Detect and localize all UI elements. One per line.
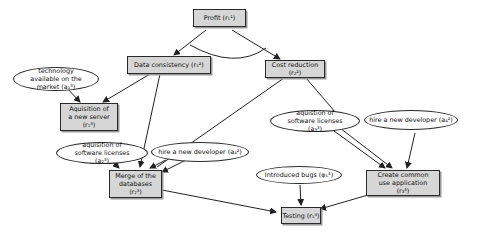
goal-cost-reduction[interactable]: Cost reduction (r₂²): [265, 60, 325, 78]
goal-merge-databases[interactable]: Merge of the databases (r₂³): [109, 170, 162, 198]
condition-developer-right-label: hire a new developer (a₄²): [369, 116, 453, 124]
goal-new-server[interactable]: Aquisition of a new server (r₁³): [60, 103, 118, 131]
edge-merge-testing: [162, 190, 276, 212]
condition-licenses-right[interactable]: aquistion of software licenses (a₃³): [270, 110, 360, 132]
condition-licenses-right-label: aquistion of software licenses (a₃³): [285, 109, 345, 133]
edge-licenses-right-common-app: [330, 128, 385, 168]
condition-licenses-left-label: aquisition of software licenses (a₂³): [71, 141, 133, 165]
condition-technology-label: technology available on the market (a₁³): [24, 67, 88, 91]
goal-data-consistency-label: Data consistency (r₁²): [134, 61, 204, 69]
goal-profit-label: Profit (r₁¹): [204, 14, 235, 22]
goal-profit[interactable]: Profit (r₁¹): [193, 9, 246, 27]
goal-cost-reduction-label: Cost reduction (r₂²): [266, 61, 324, 77]
goal-common-app[interactable]: Create common use application (r₃³): [366, 170, 440, 196]
goal-testing[interactable]: Testing (r₁⁴): [281, 207, 321, 224]
goal-data-consistency[interactable]: Data consistency (r₁²): [127, 56, 211, 74]
condition-developer-left-label: hire a new developer (a₄²): [158, 148, 242, 156]
condition-developer-right[interactable]: hire a new developer (a₄²): [364, 110, 458, 130]
edge-common-app-testing: [320, 195, 368, 209]
goal-new-server-label: Aquisition of a new server (r₁³): [67, 105, 111, 129]
edge-data-consistency-new-server: [103, 74, 150, 102]
goal-common-app-label: Create common use application (r₃³): [375, 171, 431, 195]
goal-merge-databases-label: Merge of the databases (r₂³): [115, 172, 156, 196]
edge-profit-data-consistency: [174, 30, 206, 55]
condition-bugs[interactable]: Introduced bugs (φ₁⁴): [256, 166, 342, 184]
edge-bugs-testing: [300, 185, 301, 205]
condition-licenses-left[interactable]: aquisition of software licenses (a₂³): [56, 142, 148, 164]
goal-testing-label: Testing (r₁⁴): [282, 212, 319, 220]
edge-profit-cost-reduction: [232, 30, 280, 59]
condition-developer-left[interactable]: hire a new developer (a₄²): [151, 142, 249, 162]
condition-bugs-label: Introduced bugs (φ₁⁴): [265, 171, 333, 179]
edge-developer-right-common-app: [407, 133, 415, 168]
edge-cost-reduction-common-app: [306, 78, 336, 113]
condition-technology[interactable]: technology available on the market (a₁³): [13, 67, 99, 91]
